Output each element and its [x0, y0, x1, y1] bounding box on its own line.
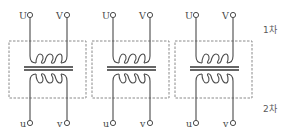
transformer-2: U V u v [92, 10, 169, 129]
terminal-v [147, 120, 152, 125]
label-v: v [222, 118, 229, 129]
label-U: U [19, 10, 27, 21]
primary-coil-icon [202, 54, 228, 63]
primary-coil-icon [119, 54, 145, 63]
secondary-coil-icon [202, 74, 228, 83]
secondary-wire-left [113, 74, 119, 120]
terminal-U [110, 12, 115, 17]
terminal-V [230, 12, 235, 17]
terminal-u [27, 120, 32, 125]
terminal-u [193, 120, 198, 125]
transformer-1: U V u v [9, 10, 86, 129]
label-V: V [221, 10, 229, 21]
label-u: u [186, 118, 192, 129]
secondary-coil-icon [36, 74, 62, 83]
label-U: U [185, 10, 193, 21]
terminal-v [64, 120, 69, 125]
primary-side-label: 1차 [263, 24, 278, 35]
label-u: u [103, 118, 109, 129]
label-v: v [139, 118, 146, 129]
terminal-U [27, 12, 32, 17]
transformer-diagram: U V u v U V u v [0, 0, 285, 137]
label-v: v [56, 118, 63, 129]
secondary-coil-icon [119, 74, 145, 83]
terminal-V [147, 12, 152, 17]
terminal-v [230, 120, 235, 125]
secondary-side-label: 2차 [263, 103, 278, 114]
label-V: V [138, 10, 146, 21]
transformer-3: U V u v [175, 10, 252, 129]
label-U: U [102, 10, 110, 21]
secondary-wire-left [196, 74, 202, 120]
terminal-V [64, 12, 69, 17]
label-u: u [20, 118, 26, 129]
terminal-U [193, 12, 198, 17]
terminal-u [110, 120, 115, 125]
secondary-wire-left [30, 74, 36, 120]
label-V: V [55, 10, 63, 21]
primary-coil-icon [36, 54, 62, 63]
